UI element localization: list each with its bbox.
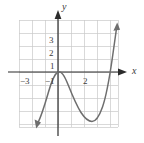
grid-lines [19,20,118,127]
coordinate-plane [0,0,144,143]
x-axis-label: x [132,66,136,76]
y-axis-label: y [62,2,66,12]
x-tick-label-neg1: −1 [45,77,55,86]
y-axis [55,10,62,136]
y-axis-arrow [55,10,62,19]
graph-figure: 3 2 1 −3 −1 2 y x [0,0,144,143]
y-tick-label-2: 2 [49,49,54,58]
curve-arrow-right [113,23,120,31]
x-tick-label-2: 2 [83,77,88,86]
y-tick-label-1: 1 [50,62,55,71]
y-tick-label-3: 3 [49,36,54,45]
x-tick-label-neg3: −3 [20,77,30,86]
